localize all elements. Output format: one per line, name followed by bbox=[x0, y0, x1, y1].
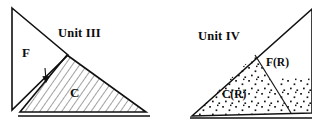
c-region-fill bbox=[10, 45, 160, 125]
unit-3-title: Unit III bbox=[58, 26, 101, 40]
figure-root: Unit III F C bbox=[0, 0, 312, 130]
f-region-label: F bbox=[22, 45, 30, 60]
panel-unit-3: Unit III F C bbox=[10, 8, 160, 125]
panel-unit-4: Unit IV F(R) C(R) bbox=[185, 9, 312, 120]
unit-4-title: Unit IV bbox=[198, 29, 240, 43]
c-region-label: C bbox=[70, 85, 79, 100]
unit-diagram-svg: Unit III F C bbox=[0, 0, 312, 130]
fr-region-label: F(R) bbox=[266, 56, 289, 69]
cr-region-label: C(R) bbox=[222, 88, 246, 101]
